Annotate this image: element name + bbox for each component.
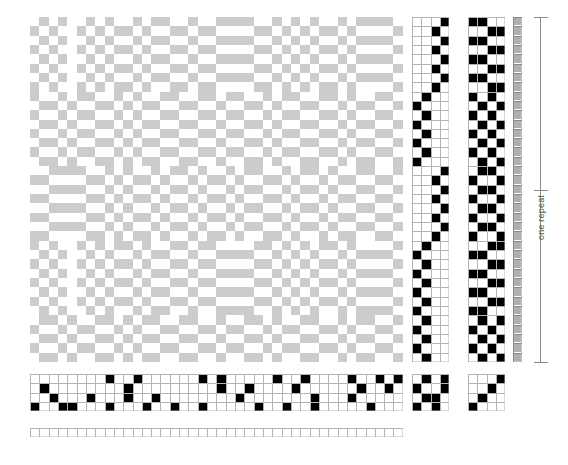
repeat-bracket-tick-bottom bbox=[534, 362, 548, 363]
repeat-ribbon-column bbox=[513, 17, 522, 362]
threading-grid-right[interactable] bbox=[412, 17, 449, 362]
tieup-grid-right[interactable] bbox=[468, 374, 505, 411]
repeat-bracket-tick-top bbox=[534, 17, 548, 18]
warp-color-row[interactable] bbox=[30, 428, 403, 437]
drawdown-cloth-simulation bbox=[30, 17, 403, 362]
weaving-draft: one repeat bbox=[0, 0, 568, 465]
repeat-label: one repeat bbox=[536, 195, 546, 240]
tieup-grid-left[interactable] bbox=[412, 374, 449, 411]
repeat-bracket bbox=[534, 17, 548, 363]
repeat-bracket-tick-mid bbox=[534, 190, 548, 191]
threading-grid-bottom[interactable] bbox=[30, 374, 403, 411]
treadling-grid[interactable] bbox=[468, 17, 505, 362]
